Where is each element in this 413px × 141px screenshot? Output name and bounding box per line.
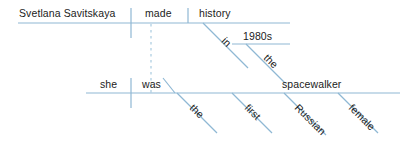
word-subject-main: Svetlana Savitskaya xyxy=(19,8,115,19)
diagram-lines xyxy=(0,0,413,141)
sentence-diagram: Svetlana Savitskaya made history in 1980… xyxy=(0,0,413,141)
word-prep-object-1980s: 1980s xyxy=(243,31,272,42)
word-verb-sub: was xyxy=(142,79,161,90)
word-verb-main: made xyxy=(145,8,172,19)
word-subject-sub: she xyxy=(100,79,117,90)
predicate-complement-slant xyxy=(163,78,175,93)
word-object-main: history xyxy=(199,8,231,19)
word-complement-spacewalker: spacewalker xyxy=(282,79,341,90)
